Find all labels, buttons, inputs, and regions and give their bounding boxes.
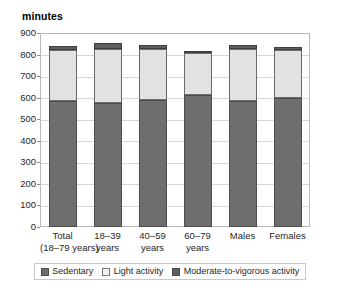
bar-segment[interactable] — [139, 100, 167, 227]
bar-segment[interactable] — [49, 101, 77, 227]
legend-item[interactable]: Sedentary — [41, 267, 94, 276]
bar-group[interactable] — [274, 47, 302, 227]
bar-segment[interactable] — [94, 103, 122, 227]
bar-segment[interactable] — [139, 49, 167, 100]
x-axis-tick-label: 60–79years — [175, 230, 220, 253]
bar-group[interactable] — [184, 51, 212, 227]
bar-segment[interactable] — [49, 50, 77, 102]
bar-segment[interactable] — [274, 98, 302, 227]
bar-segment[interactable] — [229, 101, 257, 227]
x-axis-tick-label-line: Females — [265, 230, 310, 242]
y-axis-tick-label: 900 — [2, 28, 36, 38]
y-axis-tick-label: 200 — [2, 179, 36, 189]
x-axis-tick-label-line: years — [85, 242, 130, 254]
y-axis-tick-label: 500 — [2, 114, 36, 124]
y-axis-tick-label: 600 — [2, 93, 36, 103]
bars-layer — [40, 33, 310, 227]
x-axis-tick-label-line: 18–39 — [85, 230, 130, 242]
chart-legend: SedentaryLight activityModerate-to-vigor… — [34, 263, 306, 280]
bar-segment[interactable] — [274, 50, 302, 97]
x-axis-tick-label-line: Total — [40, 230, 85, 242]
bar-segment[interactable] — [229, 49, 257, 101]
y-axis-tick-label: 100 — [2, 200, 36, 210]
x-axis-tick-label: 18–39years — [85, 230, 130, 253]
bar-segment[interactable] — [94, 43, 122, 48]
x-axis-tick-label-line: 60–79 — [175, 230, 220, 242]
x-axis-tick-label-line: years — [175, 242, 220, 254]
bar-segment[interactable] — [184, 51, 212, 54]
bar-segment[interactable] — [184, 53, 212, 95]
x-axis-tick-label: Males — [220, 230, 265, 242]
y-axis-tick-label: 0 — [2, 222, 36, 232]
legend-label: Light activity — [114, 267, 164, 276]
legend-swatch-icon — [41, 268, 49, 276]
bar-segment[interactable] — [139, 45, 167, 49]
x-axis-tick-label-line: years — [130, 242, 175, 254]
stacked-bar-chart: minutes 0100200300400500600700800900 Tot… — [0, 0, 340, 292]
x-axis-tick-label-line: Males — [220, 230, 265, 242]
x-axis-tick-labels: Total(18–79 years)18–39years40–59years60… — [40, 230, 310, 260]
y-axis-tick-mark — [37, 227, 40, 228]
y-axis-tick-label: 800 — [2, 50, 36, 60]
x-axis-tick-label-line: (18–79 years) — [40, 242, 85, 254]
y-axis-tick-label: 300 — [2, 157, 36, 167]
x-axis-tick-label: Females — [265, 230, 310, 242]
bar-segment[interactable] — [49, 46, 77, 50]
bar-group[interactable] — [49, 46, 77, 227]
bar-group[interactable] — [94, 43, 122, 227]
legend-item[interactable]: Moderate-to-vigorous activity — [172, 267, 299, 276]
bar-segment[interactable] — [274, 47, 302, 50]
bar-group[interactable] — [139, 45, 167, 227]
x-axis-tick-label-line: 40–59 — [130, 230, 175, 242]
y-axis-tick-label: 700 — [2, 71, 36, 81]
y-axis-tick-label: 400 — [2, 136, 36, 146]
legend-swatch-icon — [102, 268, 110, 276]
x-axis-tick-label: Total(18–79 years) — [40, 230, 85, 253]
legend-item[interactable]: Light activity — [102, 267, 163, 276]
legend-swatch-icon — [172, 268, 180, 276]
bar-segment[interactable] — [184, 95, 212, 227]
legend-label: Sedentary — [52, 267, 93, 276]
bar-group[interactable] — [229, 45, 257, 227]
bar-segment[interactable] — [229, 45, 257, 50]
legend-label: Moderate-to-vigorous activity — [184, 267, 300, 276]
bar-segment[interactable] — [94, 49, 122, 103]
x-axis-tick-label: 40–59years — [130, 230, 175, 253]
y-axis-title: minutes — [22, 10, 63, 22]
